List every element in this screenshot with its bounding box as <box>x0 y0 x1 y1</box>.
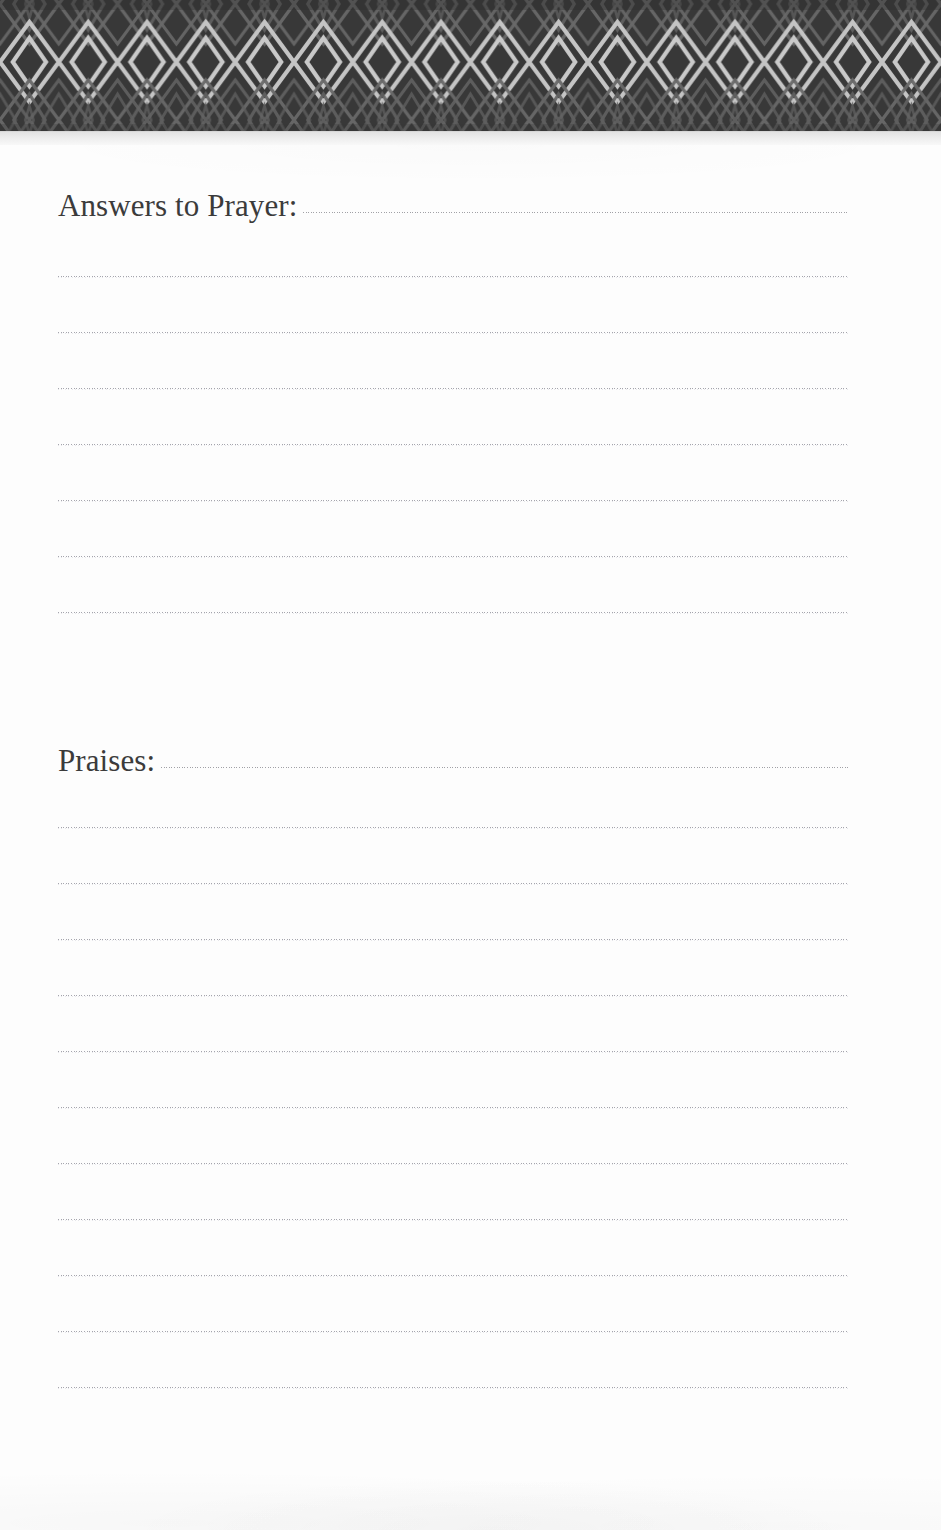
praises-heading: Praises: <box>58 745 155 776</box>
writing-line[interactable] <box>58 1219 848 1220</box>
writing-line[interactable] <box>58 500 848 501</box>
writing-line[interactable] <box>58 444 848 445</box>
diamond-pattern-svg <box>0 0 941 132</box>
writing-line[interactable] <box>58 276 848 277</box>
section-answers-to-prayer: Answers to Prayer: <box>0 190 941 221</box>
header-underline-strip <box>0 132 941 145</box>
writing-line[interactable] <box>58 1387 848 1388</box>
praises-heading-writing-rule[interactable] <box>161 767 849 768</box>
section-praises: Praises: <box>0 745 941 776</box>
praises-heading-row: Praises: <box>0 745 941 776</box>
writing-line[interactable] <box>58 883 848 884</box>
journal-page: Answers to Prayer: Praises: <box>0 0 941 1530</box>
writing-line[interactable] <box>58 612 848 613</box>
writing-line[interactable] <box>58 1163 848 1164</box>
paper-grain-bottom <box>0 1460 941 1530</box>
answers-to-prayer-heading: Answers to Prayer: <box>58 190 297 221</box>
answers-heading-row: Answers to Prayer: <box>0 190 941 221</box>
writing-line[interactable] <box>58 939 848 940</box>
writing-line[interactable] <box>58 332 848 333</box>
writing-line[interactable] <box>58 1275 848 1276</box>
writing-line[interactable] <box>58 556 848 557</box>
writing-line[interactable] <box>58 1331 848 1332</box>
paper-grain-top <box>0 145 941 185</box>
answers-heading-writing-rule[interactable] <box>303 212 849 213</box>
writing-line[interactable] <box>58 827 848 828</box>
writing-line[interactable] <box>58 388 848 389</box>
writing-line[interactable] <box>58 1107 848 1108</box>
writing-line[interactable] <box>58 995 848 996</box>
decorative-diamond-border <box>0 0 941 132</box>
writing-line[interactable] <box>58 1051 848 1052</box>
